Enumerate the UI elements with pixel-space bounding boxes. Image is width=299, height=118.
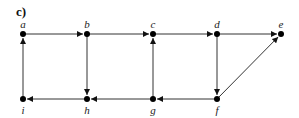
node-dot [84,96,90,102]
node-label: h [84,104,90,116]
node-label: a [20,18,26,30]
panel-label: c) [16,4,26,19]
node-dot [214,96,220,102]
node-label: d [214,18,220,30]
node-dot [150,31,156,37]
node-f: f [214,96,220,116]
directed-graph: c) abcdeihgf [0,0,299,118]
node-dot [20,31,26,37]
node-b: b [84,18,90,37]
nodes-layer: abcdeihgf [20,18,284,116]
node-dot [150,96,156,102]
edge-f-to-e [217,37,278,99]
node-a: a [20,18,26,37]
node-label: f [215,104,220,116]
node-label: c [151,18,156,30]
node-dot [278,31,284,37]
node-dot [84,31,90,37]
node-e: e [278,18,284,37]
node-dot [214,31,220,37]
node-c: c [150,18,156,37]
node-i: i [20,96,26,116]
node-label: g [150,104,156,116]
node-label: i [21,104,24,116]
node-dot [20,96,26,102]
node-label: b [84,18,90,30]
node-g: g [150,96,156,116]
edges-layer [23,34,278,99]
node-d: d [214,18,220,37]
node-label: e [279,18,284,30]
node-h: h [84,96,90,116]
